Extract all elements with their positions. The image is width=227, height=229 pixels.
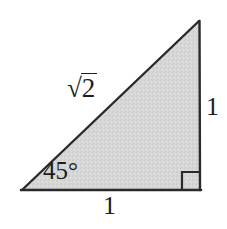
horizontal-leg-length-label: 1 xyxy=(103,193,116,219)
vertical-leg-length-label: 1 xyxy=(206,94,219,120)
radicand-value: 2 xyxy=(81,73,98,102)
figure-canvas: √2 1 1 45° xyxy=(0,0,227,229)
vertical-leg-edge xyxy=(200,21,201,190)
base-angle-label: 45° xyxy=(43,158,78,183)
hypotenuse-length-label: √2 xyxy=(66,73,97,102)
radical-expression: √2 xyxy=(66,73,97,102)
radical-sign-icon: √ xyxy=(67,73,82,103)
